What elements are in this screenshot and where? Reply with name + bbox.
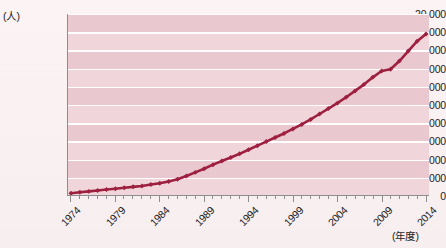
x-axis-tick: [239, 196, 240, 199]
x-axis-tick: [319, 196, 320, 199]
chart-figure: (人) 20,00018,00016,00014,00012,00010,000…: [0, 0, 446, 248]
x-axis-tick: [408, 196, 409, 199]
data-point-marker: [131, 184, 136, 189]
x-axis-tick: [301, 196, 302, 199]
x-axis-tick: [150, 196, 151, 199]
x-axis-tick: [168, 196, 169, 199]
x-axis-tick: [70, 196, 71, 202]
x-axis-tick-label: 1979: [103, 204, 127, 228]
x-axis-tick: [337, 196, 338, 202]
x-axis-tick-label: 1994: [236, 204, 260, 228]
data-point-marker: [148, 182, 153, 187]
data-point-marker: [77, 190, 82, 195]
x-axis-tick: [221, 196, 222, 199]
x-axis-tick-label: 2009: [370, 204, 394, 228]
x-axis-tick-label: 1989: [192, 204, 216, 228]
x-axis-tick: [88, 196, 89, 199]
data-point-marker: [68, 191, 73, 195]
data-point-marker: [113, 186, 118, 191]
x-axis-tick: [426, 196, 427, 202]
x-axis-tick: [204, 196, 205, 202]
x-axis-tick: [355, 196, 356, 199]
x-axis-tick-label: 1974: [58, 204, 82, 228]
data-series-line: [68, 14, 429, 195]
x-axis-tick: [417, 196, 418, 199]
x-axis-tick-label: 1999: [281, 204, 305, 228]
x-axis-unit-label: (年度): [392, 228, 419, 243]
x-axis-tick: [399, 196, 400, 199]
x-axis-tick: [141, 196, 142, 199]
x-axis-tick: [115, 196, 116, 202]
x-axis-tick: [382, 196, 383, 202]
x-axis-tick: [257, 196, 258, 199]
x-axis-tick: [328, 196, 329, 199]
x-axis-tick: [97, 196, 98, 199]
x-axis-tick: [132, 196, 133, 199]
data-point-marker: [95, 188, 100, 193]
data-point-marker: [122, 185, 127, 190]
x-axis-tick: [186, 196, 187, 199]
x-axis-tick: [266, 196, 267, 199]
x-axis-tick: [195, 196, 196, 199]
x-axis-tick: [310, 196, 311, 199]
x-axis-tick: [364, 196, 365, 199]
data-point-marker: [104, 187, 109, 192]
y-axis-unit-label: (人): [3, 8, 20, 23]
plot-area: [67, 14, 429, 196]
x-axis-tick: [373, 196, 374, 199]
x-axis-tick: [212, 196, 213, 199]
x-axis-tick: [230, 196, 231, 199]
x-axis-tick: [177, 196, 178, 199]
data-point-marker: [86, 189, 91, 194]
x-axis-tick: [248, 196, 249, 202]
x-axis-tick: [79, 196, 80, 199]
data-point-marker: [140, 183, 145, 188]
x-axis-tick: [159, 196, 160, 202]
x-axis-tick: [390, 196, 391, 199]
x-axis-tick-label: 2014: [414, 204, 438, 228]
x-axis-tick: [106, 196, 107, 199]
x-axis-tick: [284, 196, 285, 199]
x-axis-tick: [123, 196, 124, 199]
x-axis-tick-label: 1984: [147, 204, 171, 228]
x-axis-tick-label: 2004: [325, 204, 349, 228]
data-point-marker: [157, 181, 162, 186]
x-axis-tick: [346, 196, 347, 199]
x-axis-tick: [293, 196, 294, 202]
data-point-markers: [68, 31, 428, 195]
x-axis-ticks: [67, 196, 429, 203]
x-axis-tick: [275, 196, 276, 199]
